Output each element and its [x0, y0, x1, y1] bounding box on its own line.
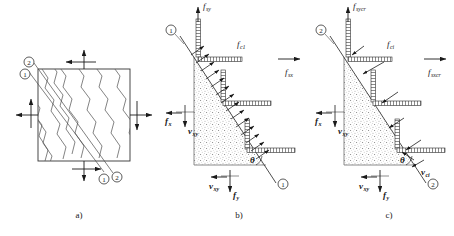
- fy-label-b: fy: [233, 190, 239, 201]
- fx-label-b: fx: [165, 116, 171, 127]
- crack-marker-top-b: 1: [166, 25, 176, 35]
- crack-marker-top-label-b: 1: [169, 27, 173, 35]
- panel-b: fsy fc1 fsx fx vxy vxy fy θ 1 1 b): [165, 1, 300, 220]
- fc1-label-b: fc1: [237, 39, 246, 50]
- fy-label-c: fy: [383, 190, 389, 201]
- fsx-label-b: fsx: [285, 67, 293, 78]
- fy-subscript-b: y: [235, 195, 239, 201]
- panel-c: fsycr fci fsxcr fx vxy vxy fy vci θ 2 2: [315, 1, 446, 220]
- fsy-subscript-b: sy: [206, 6, 211, 12]
- crack-marker-bottom-b: 1: [278, 179, 288, 189]
- fc1-subscript-b: c1: [240, 44, 246, 50]
- panel-a: 2 1 1 2 a): [16, 50, 152, 220]
- crack-marker-bottom-label-b: 1: [281, 181, 285, 189]
- axis-marker-2-bottom: 2: [112, 172, 122, 182]
- axis-marker-1-top-label: 1: [23, 71, 27, 79]
- crack-marker-bottom-label-c: 2: [431, 181, 435, 189]
- fx-subscript-b: x: [167, 121, 171, 127]
- vci-subscript-c: ci: [425, 172, 430, 178]
- fsx-subscript-b: sx: [288, 72, 293, 78]
- vxy-left-subscript-c: xy: [341, 131, 348, 137]
- mcft-figure-svg: 2 1 1 2 a): [0, 0, 454, 236]
- fsycr-subscript-c: sycr: [356, 6, 367, 12]
- vxy-bottom-label-c: vxy: [359, 181, 369, 192]
- axis-marker-1-bottom-label: 1: [102, 176, 106, 184]
- figure-root: 2 1 1 2 a): [0, 0, 454, 236]
- fsxcr-subscript-c: sxcr: [431, 72, 442, 78]
- vci-label-c: vci: [421, 167, 430, 178]
- fci-subscript-c: ci: [390, 44, 395, 50]
- axis-marker-2-bottom-label: 2: [115, 174, 119, 182]
- panel-a-caption: a): [76, 210, 83, 220]
- crack-marker-top-label-c: 2: [319, 27, 323, 35]
- theta-label-c: θ: [400, 155, 405, 165]
- crack-leader-top-c: [325, 34, 334, 44]
- fy-subscript-c: y: [385, 195, 389, 201]
- vxy-left-subscript-b: xy: [191, 131, 198, 137]
- fsy-label-b: fsy: [203, 1, 211, 12]
- fsycr-label-c: fsycr: [353, 1, 367, 12]
- crack-leader-top-b: [175, 34, 184, 44]
- vxy-bottom-subscript-b: xy: [212, 186, 219, 192]
- axis-marker-2-top-label: 2: [27, 59, 31, 67]
- fx-label-c: fx: [315, 116, 321, 127]
- fsxcr-label-c: fsxcr: [428, 67, 442, 78]
- panel-c-caption: c): [386, 210, 393, 220]
- vxy-bottom-subscript-c: xy: [362, 186, 369, 192]
- axis-marker-1-top: 1: [20, 69, 30, 79]
- crack-marker-top-c: 2: [316, 25, 326, 35]
- theta-label-b: θ: [250, 155, 255, 165]
- fx-subscript-c: x: [317, 121, 321, 127]
- panel-b-caption: b): [235, 210, 243, 220]
- crack-marker-bottom-c: 2: [428, 179, 438, 189]
- vxy-bottom-label-b: vxy: [209, 181, 219, 192]
- axis-marker-2-top: 2: [24, 57, 34, 67]
- fci-label-c: fci: [387, 39, 395, 50]
- axis-marker-1-bottom: 1: [99, 174, 109, 184]
